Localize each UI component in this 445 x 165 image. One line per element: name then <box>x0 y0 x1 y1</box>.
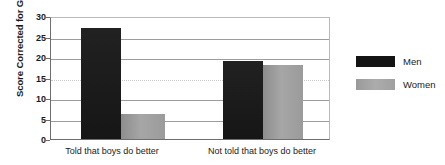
bar-women-not-told <box>263 65 303 139</box>
legend-item-women: Women <box>356 78 442 90</box>
legend-label-men: Men <box>403 56 421 67</box>
y-tick-label: 20 <box>28 54 46 63</box>
y-tick-label: 10 <box>28 95 46 104</box>
y-tick-label: 15 <box>28 75 46 84</box>
women-swatch-icon <box>356 79 395 90</box>
y-tick-label: 30 <box>28 13 46 22</box>
bar-men-not-told <box>223 61 263 139</box>
y-tick-label: 25 <box>28 34 46 43</box>
y-tick-label: 0 <box>28 136 46 145</box>
y-tick-label: 5 <box>28 116 46 125</box>
legend-label-women: Women <box>403 79 436 90</box>
chart-legend: Men Women <box>356 55 442 101</box>
bar-chart: Score Corrected for Guessing 30 25 20 15… <box>0 0 445 165</box>
y-tick-mark <box>46 140 50 141</box>
legend-item-men: Men <box>356 55 442 67</box>
bar-women-told <box>121 114 165 139</box>
bar-men-told <box>81 28 121 139</box>
plot-area <box>50 17 330 140</box>
x-axis-label-group-2: Not told that boys do better <box>192 146 332 156</box>
men-swatch-icon <box>356 56 395 67</box>
x-axis-label-group-1: Told that boys do better <box>52 146 172 156</box>
